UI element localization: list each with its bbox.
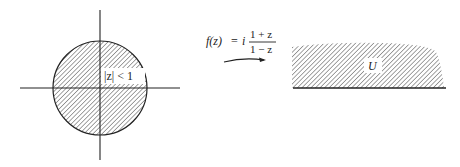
fraction-denominator: 1 − z — [250, 43, 272, 55]
unit-disk-figure: |z| < 1 — [20, 10, 180, 160]
equals-sign: = — [231, 34, 238, 48]
coefficient-i: i — [242, 34, 245, 48]
function-name: f(z) — [206, 34, 222, 48]
arrow-head-icon — [259, 58, 266, 63]
mapping-arrow — [224, 59, 264, 62]
fraction-numerator: 1 + z — [250, 28, 272, 40]
mapping-formula: f(z) = i 1 + z 1 − z — [206, 28, 276, 62]
disk-label: |z| < 1 — [104, 69, 133, 83]
conformal-map-diagram: |z| < 1 f(z) = i 1 + z 1 − z U — [0, 0, 460, 167]
upper-half-plane-figure: U — [292, 43, 446, 88]
region-label: U — [368, 59, 378, 73]
